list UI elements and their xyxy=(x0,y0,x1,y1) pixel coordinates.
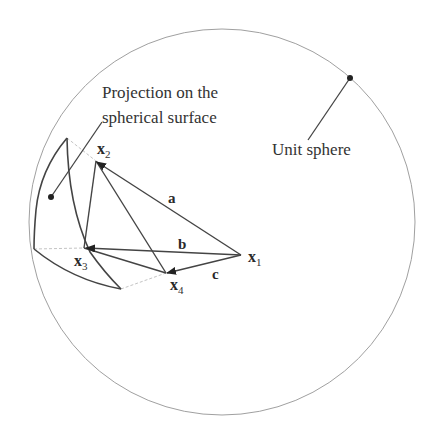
edge-x2-x4 xyxy=(96,161,166,273)
vector-label-b: b xyxy=(178,236,186,252)
ray-to-x3 xyxy=(34,248,84,249)
projection-label-line1: Projection on the xyxy=(102,83,218,102)
vector-b-arrow xyxy=(86,248,241,255)
point-label-x1: x1 xyxy=(248,248,262,268)
unit-sphere-diagram: Projection on the spherical surface Unit… xyxy=(0,0,437,434)
projection-leader-dot xyxy=(48,194,54,200)
projection-leader-line xyxy=(51,122,102,197)
vector-label-c: c xyxy=(212,266,219,282)
tetrahedron-edges xyxy=(84,161,166,273)
point-label-x2: x2 xyxy=(97,140,111,160)
vector-c-arrow xyxy=(167,255,241,273)
projection-label-line2: spherical surface xyxy=(102,108,217,127)
ray-to-x2 xyxy=(67,138,96,161)
vector-label-a: a xyxy=(168,190,176,206)
sphere-leader-dot xyxy=(347,75,353,81)
ray-to-x4 xyxy=(121,273,166,289)
point-label-x4: x4 xyxy=(170,276,184,296)
point-label-x3: x3 xyxy=(74,252,88,272)
projection-arc-outer xyxy=(34,138,67,249)
sphere-leader-line xyxy=(308,78,350,140)
vector-a-arrow xyxy=(97,162,241,255)
unit-sphere-label: Unit sphere xyxy=(272,140,351,159)
edge-x2-x3 xyxy=(84,161,96,248)
